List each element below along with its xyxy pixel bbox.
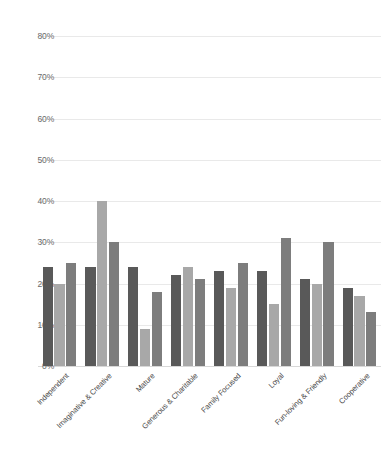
bar[interactable] [66, 263, 76, 366]
bar[interactable] [312, 284, 322, 367]
bar[interactable] [269, 304, 279, 366]
bar[interactable] [152, 292, 162, 366]
bar[interactable] [281, 238, 291, 366]
bar-group [81, 36, 124, 366]
bar[interactable] [300, 279, 310, 366]
bars-layer [38, 36, 381, 366]
bar[interactable] [128, 267, 138, 366]
category-label: Family Focused [152, 372, 242, 456]
bar-group [167, 36, 210, 366]
bar-group [38, 36, 81, 366]
bar[interactable] [354, 296, 364, 366]
bar[interactable] [85, 267, 95, 366]
bar[interactable] [366, 312, 376, 366]
category-label: Mature [66, 372, 156, 456]
bar[interactable] [257, 271, 267, 366]
bar-group [252, 36, 295, 366]
category-label: Fun-loving & Friendly [238, 372, 328, 456]
bar[interactable] [195, 279, 205, 366]
bar-group [210, 36, 253, 366]
bar-chart: 80%70%60%50%40%30%20%10%0% IndependentIm… [0, 0, 389, 456]
bar[interactable] [226, 288, 236, 366]
category-label: Imaginative & Creative [23, 372, 113, 456]
bar[interactable] [214, 271, 224, 366]
bar[interactable] [323, 242, 333, 366]
bar[interactable] [238, 263, 248, 366]
bar-group [124, 36, 167, 366]
bar[interactable] [109, 242, 119, 366]
bar-group [295, 36, 338, 366]
bar[interactable] [43, 267, 53, 366]
category-label: Cooperative [281, 372, 371, 456]
bar[interactable] [343, 288, 353, 366]
category-label: Independent [0, 372, 71, 456]
category-label: Generous & Charitable [109, 372, 199, 456]
category-label: Loyal [195, 372, 285, 456]
bar[interactable] [54, 284, 64, 367]
gridline-0 [38, 366, 381, 367]
bar-group [338, 36, 381, 366]
bar[interactable] [97, 201, 107, 366]
bar[interactable] [171, 275, 181, 366]
bar[interactable] [183, 267, 193, 366]
bar[interactable] [140, 329, 150, 366]
